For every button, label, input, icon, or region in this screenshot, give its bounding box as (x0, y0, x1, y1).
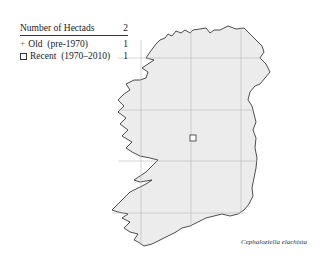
square-icon (20, 53, 27, 60)
legend: Number of Hectads 2 +Old (pre-1970) 1 Re… (20, 22, 128, 62)
legend-title: Number of Hectads (20, 22, 94, 34)
plus-icon: + (20, 39, 25, 49)
legend-label-old: Old (pre-1970) (28, 39, 88, 49)
species-caption: Cephaloziella elachista (241, 238, 307, 246)
legend-header: Number of Hectads 2 (20, 22, 128, 36)
legend-total: 2 (123, 22, 128, 34)
legend-count-old: 1 (123, 38, 128, 50)
recent-record-marker (190, 135, 196, 141)
legend-item-recent: Recent (1970–2010) 1 (20, 50, 128, 62)
legend-count-recent: 1 (123, 50, 128, 62)
legend-item-old: +Old (pre-1970) 1 (20, 38, 128, 50)
legend-label-recent: Recent (1970–2010) (30, 51, 110, 61)
